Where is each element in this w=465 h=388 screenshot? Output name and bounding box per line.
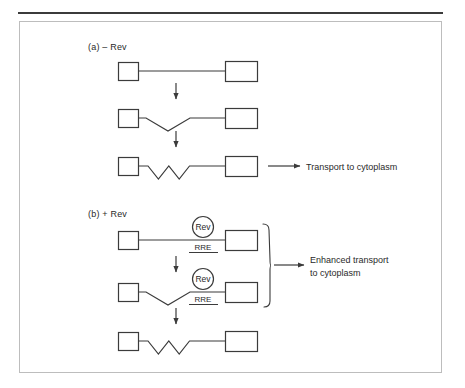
rre-label: RRE xyxy=(195,295,212,304)
exon-box-left xyxy=(119,158,139,176)
exon-box-right xyxy=(226,231,258,251)
exon-box-right xyxy=(226,332,258,352)
exon-box-right xyxy=(226,157,258,177)
exon-box-left xyxy=(119,284,139,302)
exon-box-left xyxy=(119,63,139,81)
exon-box-left xyxy=(119,333,139,351)
transcript-row: RevRRE xyxy=(119,217,258,253)
rev-protein-label: Rev xyxy=(195,222,211,232)
rna-strand xyxy=(138,118,225,131)
exon-box-left xyxy=(119,232,139,250)
diagram-vector-layer: RevRRERevRRE xyxy=(0,0,465,388)
transcript-row xyxy=(119,332,258,355)
rna-strand xyxy=(138,166,225,179)
exon-box-right xyxy=(226,283,258,303)
exon-box-left xyxy=(119,110,139,128)
rna-strand xyxy=(138,341,225,354)
exon-box-right xyxy=(226,109,258,129)
exon-box-right xyxy=(226,62,258,82)
transcript-row xyxy=(119,109,258,132)
rre-label: RRE xyxy=(195,243,212,252)
transcript-row xyxy=(119,157,258,180)
transcript-row xyxy=(119,62,258,82)
rev-protein-label: Rev xyxy=(195,274,211,284)
rev-transport-figure: (a) – Rev (b) + Rev Transport to cytopla… xyxy=(0,0,465,388)
grouping-brace xyxy=(263,224,271,307)
transcript-row: RevRRE xyxy=(119,269,258,306)
rna-strand xyxy=(138,292,225,305)
